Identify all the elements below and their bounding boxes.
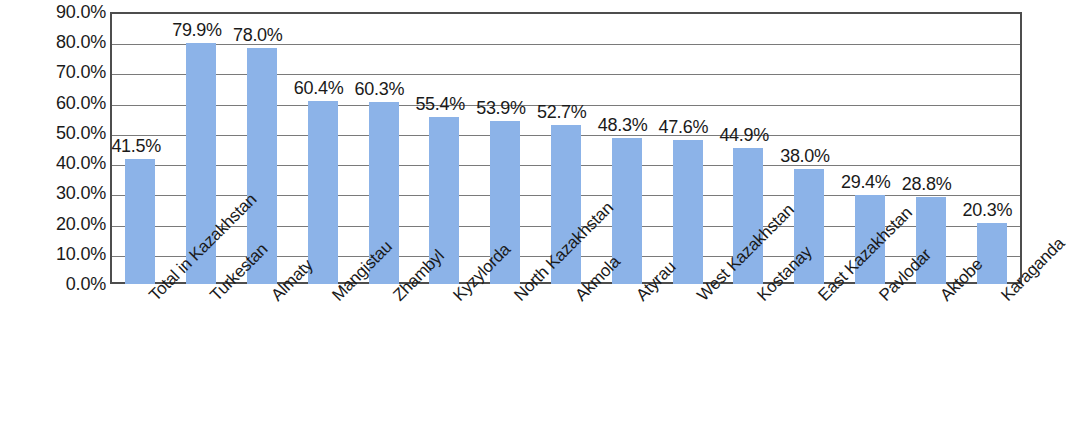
- y-axis-tick-label: 0.0%: [2, 275, 106, 293]
- bar-value-label: 55.4%: [415, 95, 465, 113]
- bar-value-label: 29.4%: [841, 173, 891, 191]
- y-axis-tick-label: 50.0%: [2, 124, 106, 142]
- y-axis-tick-label: 30.0%: [2, 184, 106, 202]
- bar-value-label: 48.3%: [598, 116, 648, 134]
- bar-value-label: 44.9%: [719, 126, 769, 144]
- y-axis-tick-label: 20.0%: [2, 215, 106, 233]
- bar-value-label: 78.0%: [233, 26, 283, 44]
- bar-value-label: 53.9%: [476, 99, 526, 117]
- y-axis-tick-label: 90.0%: [2, 3, 106, 21]
- bar-value-label: 47.6%: [659, 118, 709, 136]
- bar-value-label: 60.3%: [355, 80, 405, 98]
- y-axis-tick-label: 80.0%: [2, 33, 106, 51]
- bar-value-label: 52.7%: [537, 103, 587, 121]
- x-axis-category-labels: Total in KazakhstanTurkestanAlmatyMangis…: [110, 288, 1022, 432]
- bar-value-label: 79.9%: [172, 21, 222, 39]
- y-axis-tick-label: 60.0%: [2, 94, 106, 112]
- y-axis: 90.0%80.0%70.0%60.0%50.0%40.0%30.0%20.0%…: [0, 12, 106, 284]
- bar-value-label: 60.4%: [294, 79, 344, 97]
- bar-value-label: 41.5%: [111, 137, 161, 155]
- y-axis-tick-label: 10.0%: [2, 245, 106, 263]
- bar-value-label: 20.3%: [963, 201, 1013, 219]
- y-axis-tick-label: 40.0%: [2, 154, 106, 172]
- y-axis-tick-label: 70.0%: [2, 63, 106, 81]
- bar-value-label: 28.8%: [902, 175, 952, 193]
- bar-value-label: 38.0%: [780, 147, 830, 165]
